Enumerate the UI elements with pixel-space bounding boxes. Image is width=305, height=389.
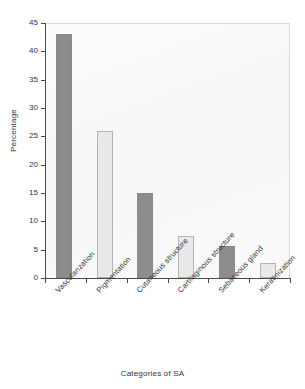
y-tick-0: 0 <box>0 278 45 279</box>
x-tick-mark <box>45 279 46 283</box>
bars-group <box>0 23 305 278</box>
x-tick-mark <box>290 279 291 283</box>
bar-vascularization <box>56 34 72 278</box>
bar-chart: Percentage 051015202530354045 Vasculariz… <box>0 0 305 389</box>
x-tick-mark <box>168 279 169 283</box>
x-tick-mark <box>86 279 87 283</box>
bar-cutaneous-structure <box>137 193 153 278</box>
x-axis-title: Categories of SA <box>0 369 305 378</box>
x-tick-mark <box>127 279 128 283</box>
bar-pigmentation <box>97 131 113 278</box>
x-tick-mark <box>249 279 250 283</box>
x-tick-mark <box>208 279 209 283</box>
